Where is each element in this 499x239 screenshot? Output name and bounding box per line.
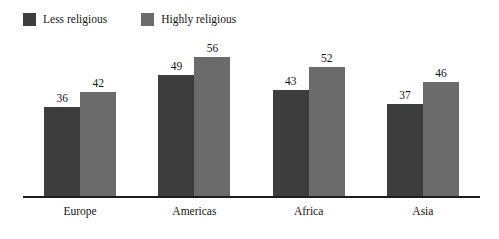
legend-label-less-religious: Less religious: [43, 13, 107, 26]
bar-value-label: 43: [285, 75, 297, 88]
legend-swatch-icon-less-religious: [23, 13, 36, 26]
bar-rect[interactable]: [194, 57, 230, 196]
x-axis-label-africa: Africa: [252, 201, 366, 221]
bar-value-label: 56: [207, 42, 219, 55]
x-axis-label-asia: Asia: [366, 201, 480, 221]
bar-rect[interactable]: [309, 67, 345, 196]
legend-entry-highly-religious: Highly religious: [141, 10, 236, 28]
x-axis-label-europe: Europe: [23, 201, 137, 221]
bar-rect[interactable]: [44, 107, 80, 196]
bar-item[interactable]: 36: [44, 40, 80, 196]
bar-item[interactable]: 46: [423, 40, 459, 196]
bar-group: 3746: [366, 40, 480, 196]
bar-value-label: 52: [321, 52, 333, 65]
bar-rect[interactable]: [423, 82, 459, 196]
bar-rect[interactable]: [158, 75, 194, 196]
bar-value-label: 46: [435, 67, 447, 80]
bar-value-label: 37: [399, 89, 411, 102]
bar-item[interactable]: 42: [80, 40, 116, 196]
bar-rect[interactable]: [80, 92, 116, 196]
bar-group: 4956: [137, 40, 251, 196]
x-axis-label-americas: Americas: [137, 201, 251, 221]
bar-group-bars: 3746: [366, 40, 480, 196]
legend-swatch-icon-highly-religious: [141, 13, 154, 26]
chart-legend: Less religious Highly religious: [23, 10, 236, 28]
bar-group-bars: 4352: [252, 40, 366, 196]
plot-area: 3642495643523746: [23, 40, 480, 196]
bar-item[interactable]: 49: [158, 40, 194, 196]
bar-item[interactable]: 52: [309, 40, 345, 196]
bar-value-label: 49: [171, 60, 183, 73]
bar-item[interactable]: 43: [273, 40, 309, 196]
bar-group: 3642: [23, 40, 137, 196]
bar-item[interactable]: 37: [387, 40, 423, 196]
bar-group: 4352: [252, 40, 366, 196]
bar-chart: Less religious Highly religious 36424956…: [0, 0, 499, 239]
bar-value-label: 36: [56, 92, 68, 105]
bar-value-label: 42: [92, 77, 104, 90]
bar-rect[interactable]: [387, 104, 423, 196]
legend-label-highly-religious: Highly religious: [161, 13, 236, 26]
x-axis-line: [23, 196, 480, 198]
bar-item[interactable]: 56: [194, 40, 230, 196]
bar-group-bars: 3642: [23, 40, 137, 196]
x-axis-category-labels: EuropeAmericasAfricaAsia: [23, 201, 480, 223]
bar-group-bars: 4956: [137, 40, 251, 196]
bar-rect[interactable]: [273, 90, 309, 196]
legend-entry-less-religious: Less religious: [23, 10, 107, 28]
